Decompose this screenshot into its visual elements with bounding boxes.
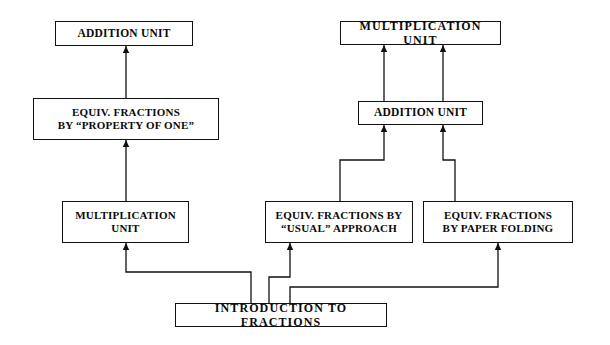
connector-line — [269, 243, 290, 303]
arrowhead-icon — [495, 243, 501, 250]
node-introduction-to-fractions[interactable]: INTRODUCTION TO FRACTIONS — [175, 303, 387, 327]
node-equiv-fractions-property-of-one[interactable]: EQUIV. FRACTIONS BY “PROPERTY OF ONE” — [33, 98, 219, 140]
connector-edge-addition-right-to-mult-right-a — [381, 45, 387, 101]
connector-line — [443, 125, 455, 201]
connector-edge-equiv-paper-folding-to-addition-right — [440, 125, 455, 201]
arrowhead-icon — [440, 125, 446, 132]
flowchart-canvas: ADDITION UNITEQUIV. FRACTIONS BY “PROPER… — [0, 0, 610, 345]
connector-line — [340, 125, 384, 201]
connector-line — [290, 243, 498, 303]
node-label: EQUIV. FRACTIONS BY PAPER FOLDING — [439, 209, 558, 235]
arrowhead-icon — [123, 243, 129, 250]
connector-edge-intro-to-mult-left — [123, 243, 251, 303]
arrowhead-icon — [123, 46, 129, 53]
node-label: MULTIPLICATION UNIT — [341, 19, 500, 47]
connector-edge-mult-left-to-equiv-property — [123, 140, 129, 201]
node-label: ADDITION UNIT — [73, 27, 174, 41]
node-addition-unit-left[interactable]: ADDITION UNIT — [55, 21, 193, 46]
connector-edge-addition-right-to-mult-right-b — [440, 45, 446, 101]
node-addition-unit-right[interactable]: ADDITION UNIT — [358, 101, 483, 125]
node-label: INTRODUCTION TO FRACTIONS — [176, 301, 386, 329]
node-label: MULTIPLICATION UNIT — [71, 209, 180, 235]
node-multiplication-unit-right[interactable]: MULTIPLICATION UNIT — [340, 21, 501, 45]
arrowhead-icon — [123, 140, 129, 147]
connector-line — [126, 243, 251, 303]
node-label: EQUIV. FRACTIONS BY “PROPERTY OF ONE” — [54, 106, 199, 132]
node-label: ADDITION UNIT — [370, 106, 471, 120]
arrowhead-icon — [381, 125, 387, 132]
arrowhead-icon — [287, 243, 293, 250]
node-equiv-fractions-usual-approach[interactable]: EQUIV. FRACTIONS BY “USUAL” APPROACH — [265, 201, 413, 243]
node-label: EQUIV. FRACTIONS BY “USUAL” APPROACH — [272, 209, 407, 235]
node-multiplication-unit-left[interactable]: MULTIPLICATION UNIT — [62, 201, 189, 243]
connector-edge-intro-to-equiv-paper-folding — [290, 243, 501, 303]
connector-edge-equiv-property-to-addition-left — [123, 46, 129, 98]
node-equiv-fractions-paper-folding[interactable]: EQUIV. FRACTIONS BY PAPER FOLDING — [423, 201, 573, 243]
connector-edge-equiv-usual-to-addition-right — [340, 125, 387, 201]
connector-layer — [0, 0, 610, 345]
